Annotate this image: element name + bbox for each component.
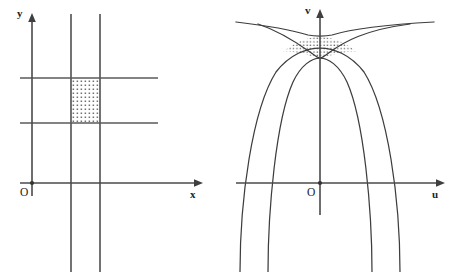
left-panel: y x O bbox=[17, 7, 203, 272]
shaded-rectangle-region bbox=[71, 78, 100, 123]
y-axis-label: y bbox=[17, 7, 23, 19]
left-origin-dot bbox=[30, 181, 34, 185]
x-axis-label: x bbox=[190, 188, 196, 200]
v-axis-label: v bbox=[305, 4, 311, 16]
v-axis-arrowhead bbox=[316, 9, 324, 18]
u-axis-label: u bbox=[432, 188, 438, 200]
right-panel: v u O bbox=[236, 4, 445, 272]
x-axis-arrowhead bbox=[194, 179, 203, 187]
left-origin-label: O bbox=[20, 186, 28, 198]
y-axis-arrowhead bbox=[28, 13, 36, 22]
curve-downward-parabola-outer bbox=[236, 22, 434, 36]
right-origin-dot bbox=[318, 181, 322, 185]
u-axis-arrowhead bbox=[436, 179, 445, 187]
figure-root: y x O v bbox=[0, 0, 472, 272]
figure-canvas: y x O v bbox=[0, 0, 472, 272]
right-origin-label: O bbox=[307, 186, 315, 198]
